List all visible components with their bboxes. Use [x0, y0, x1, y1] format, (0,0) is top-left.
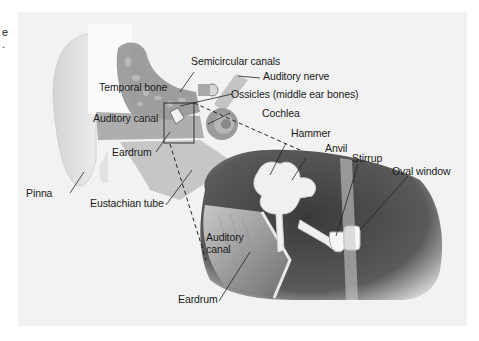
label-stirrup: Stirrup	[352, 152, 382, 164]
label-anvil: Anvil	[325, 142, 347, 154]
label-eardrum-outer: Eardrum	[112, 146, 152, 158]
label-ossicles: Ossicles (middle ear bones)	[231, 88, 358, 100]
label-auditory-nerve: Auditory nerve	[263, 70, 329, 82]
label-oval-window: Oval window	[392, 165, 450, 177]
label-auditory-canal-outer: Auditory canal	[93, 112, 158, 124]
label-semicircular-canals: Semicircular canals	[191, 55, 280, 67]
label-eustachian-tube: Eustachian tube	[90, 197, 164, 209]
label-cochlea: Cochlea	[262, 107, 300, 119]
label-hammer: Hammer	[291, 127, 331, 139]
label-pinna: Pinna	[26, 187, 52, 199]
label-auditory-canal-inset-line2: canal	[206, 243, 231, 255]
cochlea-shape	[206, 108, 238, 140]
label-eardrum-inset: Eardrum	[178, 293, 218, 305]
label-auditory-canal-inset-line1: Auditory	[206, 231, 244, 243]
label-temporal-bone: Temporal bone	[99, 81, 167, 93]
